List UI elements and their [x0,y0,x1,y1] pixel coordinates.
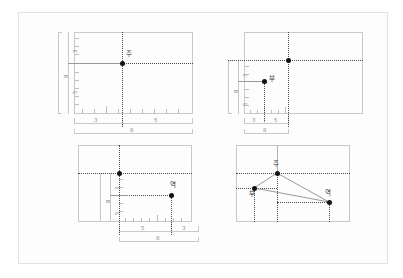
dim-label-v-five: 5 [72,91,78,95]
point-label-station: 역 [325,190,331,197]
dim-bracket-outer-v [228,60,229,114]
panel-top-right: 8 3 5 3 5 [228,32,363,137]
dim-bracket-outer-v-bot [228,113,232,114]
point-label-main: 주 [126,51,132,58]
panel-bottom-right: 주 부 역 [236,145,361,245]
dim-label-h-three: 3 [252,117,256,123]
point-label-sub: 부 [249,191,255,198]
panel-bottom-left: 8 3 5 5 3 [78,145,203,250]
dim-row-outer-h-right [198,237,199,242]
point-marker-station [327,200,332,205]
crosshair-horizontal-main [78,173,192,174]
point-marker-main [120,61,125,66]
dim-row-outer-h [74,133,193,134]
point-label-station: 역 [170,182,176,189]
dim-bracket-outer-v-top [58,32,62,33]
leader-line-horizontal [110,195,128,196]
point-marker-station [169,193,174,198]
leader-line-horizontal [238,81,265,82]
leader-line-horizontal [68,63,123,64]
dim-row-outer-h-left [119,237,120,242]
point-label-main: 주 [273,161,279,168]
dim-label-v-three: 3 [72,50,78,54]
dim-label-h-five: 5 [274,117,278,123]
crosshair-vertical-station [171,195,172,235]
dim-bracket-outer-v-bot [100,221,104,222]
dim-row-outer-h [119,241,199,242]
crosshair-vertical-main [288,32,289,127]
figure-canvas: 8 3 5 [0,0,403,278]
dim-label-h-eight: 8 [130,127,134,133]
panel-top-left: 8 3 5 [58,32,193,137]
dim-label-h-eight: 8 [263,127,267,133]
crosshair-vertical [122,32,123,127]
crosshair-horizontal-main [228,60,363,61]
dim-row-inner-h [244,123,289,124]
dim-row-outer-h-left [244,129,245,134]
dim-bracket-outer-v [58,32,59,114]
crosshair-vertical-sub [264,81,265,121]
dim-label-h-five: 5 [154,117,158,123]
panel-top-right-frame [244,32,363,114]
dim-bracket-inner-v [238,60,239,114]
point-marker-main [275,171,280,176]
dim-row-inner-h-right [192,118,193,123]
dim-bracket-inner-v [68,32,69,114]
dim-bracket-inner-v [110,173,111,222]
point-marker-main [286,58,291,63]
dim-row-inner-h [119,231,199,232]
dim-row-inner-h [74,123,193,124]
dim-bracket-outer-v [100,173,101,222]
point-marker-main [117,171,122,176]
dim-row-inner-h-left [74,118,75,123]
dim-row-outer-h-right [192,129,193,134]
crosshair-vertical-main [119,145,120,235]
dim-row-outer-h-left [74,129,75,134]
dim-row-inner-h-right [198,226,199,231]
dim-label-h-eight: 8 [156,235,160,241]
dim-bracket-outer-v-bot [58,113,62,114]
dim-label-h-three: 3 [182,225,186,231]
dim-row-outer-h [244,133,289,134]
dim-label-h-three: 3 [94,117,98,123]
point-label-sub: 부 [269,76,275,83]
point-marker-sub [262,79,267,84]
dim-row-outer-h-right [288,129,289,134]
panel-top-left-frame [74,32,193,114]
dim-label-h-five: 5 [141,225,145,231]
dim-row-inner-h-left [244,118,245,123]
